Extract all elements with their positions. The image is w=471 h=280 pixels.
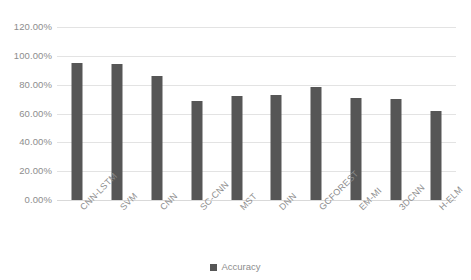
bar-slot	[217, 27, 257, 200]
x-axis-label-slot: H-ELM	[416, 200, 456, 258]
x-axis-label-slot: GCFOREST	[296, 200, 336, 258]
x-axis-label-slot: SVM	[97, 200, 137, 258]
y-axis-tick-label: 120.00%	[0, 22, 52, 32]
bar-slot	[97, 27, 137, 200]
accuracy-bar-chart: 0.00%20.00%40.00%60.00%80.00%100.00%120.…	[0, 0, 471, 280]
chart-legend: Accuracy	[0, 258, 471, 276]
y-axis-tick-label: 20.00%	[0, 166, 52, 176]
bar[interactable]	[151, 76, 162, 200]
x-axis-label-slot: SC-CNN	[177, 200, 217, 258]
bar-slot	[137, 27, 177, 200]
bar[interactable]	[71, 63, 82, 200]
legend-label-accuracy: Accuracy	[221, 262, 260, 272]
bar-slot	[416, 27, 456, 200]
x-axis-label-slot: CNN-LSTM	[57, 200, 97, 258]
y-axis-tick-label: 80.00%	[0, 80, 52, 90]
bar-slot	[376, 27, 416, 200]
bar[interactable]	[391, 99, 402, 200]
y-axis-tick-label: 60.00%	[0, 109, 52, 119]
bars-layer	[57, 27, 456, 200]
y-axis-tick-label: 100.00%	[0, 51, 52, 61]
bar-slot	[57, 27, 97, 200]
y-axis-tick-label: 0.00%	[0, 195, 52, 205]
bar[interactable]	[191, 101, 202, 200]
bar[interactable]	[271, 95, 282, 200]
bar-slot	[296, 27, 336, 200]
y-axis-tick-label: 40.00%	[0, 137, 52, 147]
bar[interactable]	[351, 98, 362, 200]
x-axis-label-slot: MST	[217, 200, 257, 258]
bar[interactable]	[231, 96, 242, 200]
x-axis-label-slot: DNN	[257, 200, 297, 258]
x-axis-label-slot: CNN	[137, 200, 177, 258]
bar-slot	[257, 27, 297, 200]
y-axis-labels: 0.00%20.00%40.00%60.00%80.00%100.00%120.…	[0, 0, 52, 280]
bar-slot	[177, 27, 217, 200]
bar[interactable]	[311, 87, 322, 200]
x-axis-label-slot: 3DCNN	[376, 200, 416, 258]
legend-square-marker-accuracy	[210, 264, 217, 271]
bar[interactable]	[431, 111, 442, 200]
x-axis-label-slot: EM-MI	[336, 200, 376, 258]
x-axis-labels: CNN-LSTMSVMCNNSC-CNNMSTDNNGCFORESTEM-MI3…	[57, 200, 456, 258]
